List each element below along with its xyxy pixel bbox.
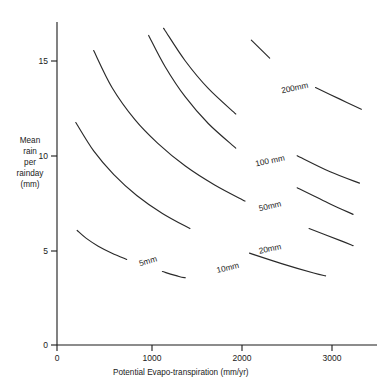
y-tick-label-10: 10 [39,151,49,161]
y-tick-label-0: 0 [43,340,48,350]
y-axis-title: Mean rain per rainday (mm) [17,136,45,189]
contour-line-5mm-a [77,230,127,259]
contour-line-200mm-a [251,40,269,58]
y-axis-ticks: 0 5 10 15 [39,56,57,350]
contour-label-200mm: 200mm [280,81,309,96]
x-axis-title: Potential Evapo-transpiration (mm/yr) [113,368,249,377]
contour-label-50mm: 50mm [258,199,282,213]
contour-line-100mm-a [164,28,236,114]
contour-line-5mm-b [162,272,185,278]
contour-label-100mm: 100 mm [255,153,286,168]
x-tick-label-0: 0 [55,353,60,363]
y-axis-title-line-2: rain [23,147,37,156]
contour-line-50mm-a [149,35,236,148]
y-axis-title-line-4: rainday [17,169,45,178]
contour-curves-layer [76,28,362,278]
x-tick-label-2000: 2000 [233,353,252,363]
contour-line-10mm-a [76,123,190,229]
contour-line-100mm-b [297,156,359,183]
contour-line-10mm-b [250,253,326,276]
contour-labels-layer: 5mm10mm20mm50mm100 mm200mm [138,81,309,275]
contour-label-10mm: 10mm [216,261,240,275]
contour-line-50mm-b [297,188,353,215]
y-axis-title-line-5: (mm) [20,180,39,189]
contour-label-5mm: 5mm [138,254,158,268]
contour-line-200mm-b [316,88,362,110]
contour-chart: 0 5 10 15 0 1000 2000 3000 Potential Eva… [0,0,386,382]
x-axis-ticks: 0 1000 2000 3000 [55,345,342,363]
x-tick-label-3000: 3000 [323,353,342,363]
chart-page: 0 5 10 15 0 1000 2000 3000 Potential Eva… [0,0,386,382]
y-tick-label-15: 15 [39,56,49,66]
y-tick-label-5: 5 [43,246,48,256]
contour-line-20mm-b [309,229,353,246]
y-axis-title-line-3: per [24,158,36,167]
x-tick-label-1000: 1000 [143,353,162,363]
y-axis-title-line-1: Mean [20,136,41,145]
contour-label-20mm: 20mm [258,242,282,256]
